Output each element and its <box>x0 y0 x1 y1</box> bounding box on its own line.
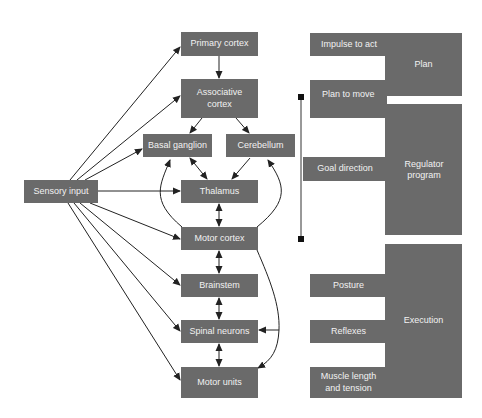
execution-item-reflexes: Reflexes <box>310 320 387 343</box>
node-cerebellum: Cerebellum <box>226 134 295 157</box>
bracket-top-marker <box>298 94 304 100</box>
node-basal-ganglion: Basal ganglion <box>143 134 212 157</box>
plan-label: Plan <box>385 33 462 96</box>
execution-item-muscle-length: Muscle length and tension <box>310 367 387 398</box>
plan-item-plan-to-move: Plan to move <box>310 80 387 118</box>
node-primary-cortex: Primary cortex <box>181 32 258 56</box>
node-sensory-input: Sensory input <box>24 180 98 203</box>
bracket-bottom-marker <box>298 236 304 242</box>
node-brainstem: Brainstem <box>181 274 258 297</box>
plan-item-impulse-to-act: Impulse to act <box>310 33 387 56</box>
node-thalamus: Thalamus <box>181 180 258 203</box>
regulator-item-goal-direction: Goal direction <box>303 157 387 181</box>
regulator-label: Regulator program <box>395 155 453 185</box>
execution-item-posture: Posture <box>310 274 387 297</box>
node-spinal-neurons: Spinal neurons <box>181 320 258 343</box>
execution-label: Execution <box>385 244 462 398</box>
node-motor-cortex: Motor cortex <box>181 227 258 250</box>
node-associative-cortex: Associative cortex <box>181 79 258 118</box>
node-motor-units: Motor units <box>181 367 258 398</box>
